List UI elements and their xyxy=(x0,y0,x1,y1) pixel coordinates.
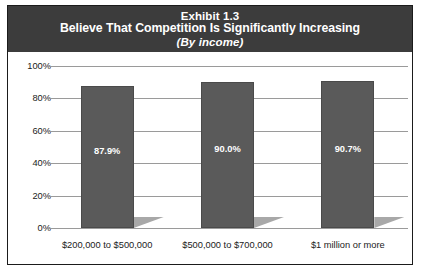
exhibit-subtitle: (By income) xyxy=(177,36,244,48)
x-axis-labels: $200,000 to $500,000$500,000 to $700,000… xyxy=(47,52,408,264)
x-axis-category-label: $500,000 to $700,000 xyxy=(182,240,272,250)
x-axis-category-label: $200,000 to $500,000 xyxy=(62,240,152,250)
plot-area: 0%20%40%60%80%100% 87.9%90.0%90.7% $200,… xyxy=(8,52,412,264)
x-axis-category-label: $1 million or more xyxy=(311,240,385,250)
figure-title-band: Exhibit 1.3 Believe That Competition Is … xyxy=(8,6,412,52)
exhibit-figure: Exhibit 1.3 Believe That Competition Is … xyxy=(0,0,421,273)
exhibit-title: Believe That Competition Is Significantl… xyxy=(60,22,360,35)
